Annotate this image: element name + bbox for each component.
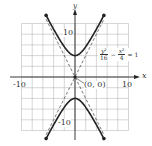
branch-end-arrow-icon	[102, 137, 106, 141]
minus-sign: −	[111, 51, 116, 58]
x-tick-label-min: -10	[13, 81, 26, 89]
y-tick-label-min: -10	[58, 119, 71, 127]
fraction-y: y² 16	[99, 48, 109, 61]
equals-one: = 1	[127, 51, 138, 58]
y-tick-label-max: 10	[63, 29, 73, 37]
y-axis-label: y	[73, 3, 77, 10]
fraction-x-denominator: 4	[119, 55, 125, 61]
equation-label: y² 16 − x² 4 = 1	[98, 48, 139, 61]
center-label: (0, 0)	[84, 81, 106, 89]
x-axis-arrow-icon	[134, 75, 140, 79]
fraction-x: x² 4	[118, 48, 126, 61]
x-tick-label-max: 10	[122, 81, 132, 89]
branch-end-arrow-icon	[44, 14, 48, 18]
axes	[10, 9, 140, 140]
branch-end-arrow-icon	[102, 14, 106, 18]
hyperbola-plot	[0, 0, 152, 146]
branch-end-arrow-icon	[44, 137, 48, 141]
x-axis-label: x	[142, 72, 147, 80]
fraction-y-denominator: 16	[99, 55, 109, 61]
